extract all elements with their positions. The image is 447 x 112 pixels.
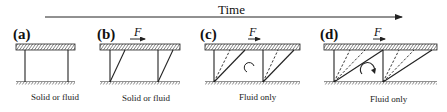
- time-axis-label: Time: [218, 3, 245, 16]
- panel-a-caption: Solid or fluid: [31, 93, 79, 102]
- panel-c-caption: Fluid only: [239, 93, 276, 102]
- panel-a-label: (a): [13, 27, 31, 42]
- panel-b-label: (b): [97, 27, 115, 42]
- panel-d-caption: Fluid only: [370, 95, 407, 104]
- panel-b-caption: Solid or fluid: [122, 94, 170, 103]
- rotation-arrow-icon: [244, 63, 254, 72]
- panel-c-graphic: [205, 39, 300, 85]
- panel-c-force-label: F: [249, 26, 256, 38]
- panel-d-label: (d): [320, 27, 338, 42]
- panel-c-label: (c): [200, 27, 217, 42]
- panel-d-force-label: F: [374, 26, 381, 38]
- panel-d-graphic: [324, 39, 437, 85]
- panel-b-force-label: F: [134, 26, 141, 38]
- rotation-arrow-icon: [360, 63, 374, 74]
- panel-b-graphic: [100, 39, 180, 85]
- panel-a-graphic: [16, 44, 75, 85]
